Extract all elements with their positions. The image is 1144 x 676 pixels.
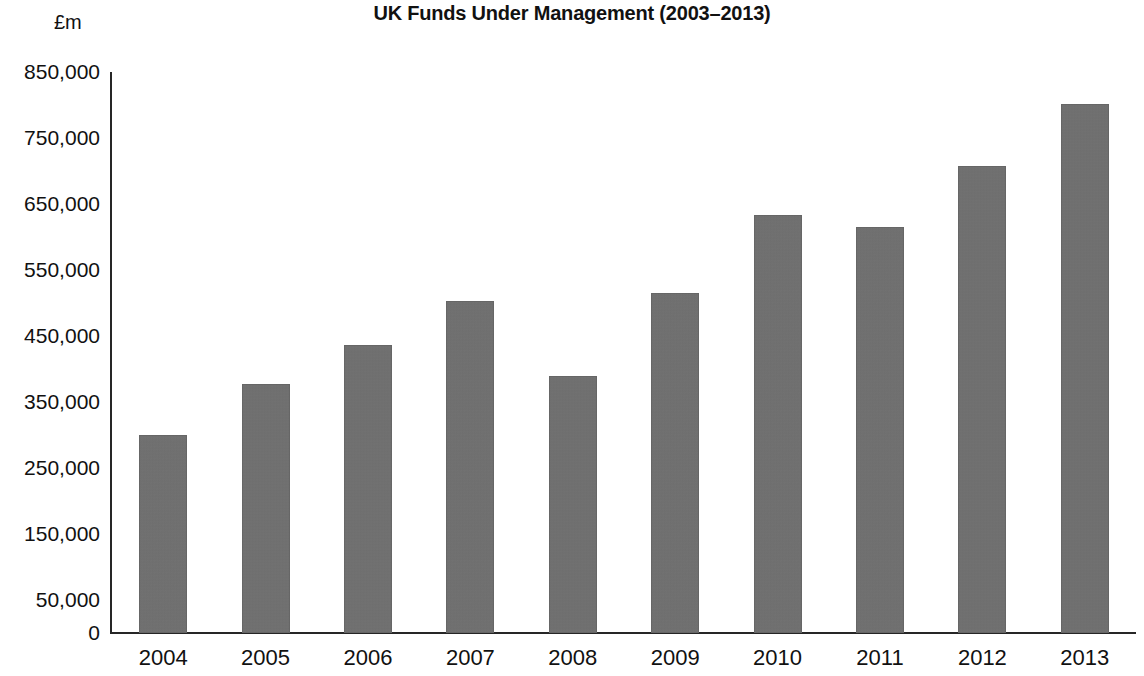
- bar: [242, 384, 290, 633]
- y-axis-tick-label: 550,000: [24, 259, 100, 280]
- y-axis-tick-label: 0: [88, 622, 100, 643]
- x-axis-tick-label: 2011: [829, 646, 931, 670]
- bar: [446, 301, 494, 633]
- bar: [754, 215, 802, 633]
- bar: [651, 293, 699, 633]
- chart-title: UK Funds Under Management (2003–2013): [0, 2, 1144, 25]
- x-axis-tick-label: 2004: [112, 646, 214, 670]
- x-axis-tick-label: 2008: [522, 646, 624, 670]
- bar-chart: UK Funds Under Management (2003–2013) £m…: [0, 0, 1144, 676]
- x-axis-tick-label: 2013: [1034, 646, 1136, 670]
- y-axis-tick-label: 850,000: [24, 61, 100, 82]
- bar: [1061, 104, 1109, 633]
- y-axis-tick-labels: 050,000150,000250,000350,000450,000550,0…: [0, 0, 100, 676]
- x-axis-tick-label: 2010: [726, 646, 828, 670]
- bar: [856, 227, 904, 633]
- bar: [549, 376, 597, 633]
- y-axis-tick-label: 650,000: [24, 193, 100, 214]
- bar: [958, 166, 1006, 633]
- plot-area: [112, 72, 1136, 633]
- y-axis-tick-label: 50,000: [36, 589, 100, 610]
- x-axis-tick-label: 2007: [419, 646, 521, 670]
- x-axis-tick-label: 2012: [931, 646, 1033, 670]
- bar: [344, 345, 392, 633]
- y-axis-tick-label: 350,000: [24, 391, 100, 412]
- x-axis-tick-label: 2005: [214, 646, 316, 670]
- x-axis-tick-label: 2009: [624, 646, 726, 670]
- x-axis-tick-label: 2006: [317, 646, 419, 670]
- y-axis-tick-label: 450,000: [24, 325, 100, 346]
- bar: [139, 435, 187, 633]
- y-axis-tick-label: 150,000: [24, 523, 100, 544]
- y-axis-tick-label: 250,000: [24, 457, 100, 478]
- y-axis-tick-label: 750,000: [24, 127, 100, 148]
